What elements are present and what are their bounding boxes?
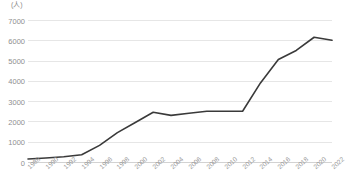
x-tick-2022: 2022: [330, 155, 345, 170]
y-tick-2000: 2000: [0, 118, 25, 127]
plot-area: [28, 20, 332, 162]
y-tick-3000: 3000: [0, 98, 25, 107]
y-tick-0: 0: [0, 159, 25, 168]
x-axis-line: [28, 162, 332, 163]
y-tick-7000: 7000: [0, 17, 25, 26]
y-tick-5000: 5000: [0, 57, 25, 66]
y-tick-6000: 6000: [0, 37, 25, 46]
y-tick-1000: 1000: [0, 138, 25, 147]
series-line: [28, 20, 332, 162]
y-axis-unit-label: (人): [11, 0, 23, 9]
y-tick-4000: 4000: [0, 77, 25, 86]
